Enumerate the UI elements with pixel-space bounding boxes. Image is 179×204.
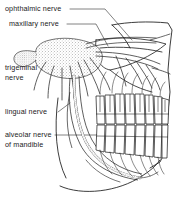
lower-tooth-8 — [162, 125, 168, 158]
label-ophthalmic-nerve-line-0: ophthalmic nerve — [5, 4, 61, 14]
anatomy-figure: ophthalmic nerve maxillary nerve trigemi… — [0, 0, 179, 204]
upper-tooth-1 — [96, 96, 105, 124]
label-lingual-nerve-line-0: lingual nerve — [5, 107, 47, 117]
upper-teeth-row — [96, 94, 169, 124]
mandible-lower-border — [60, 160, 160, 191]
ophthalmic-terminal — [150, 34, 170, 40]
label-alveolar-nerve-line-0: alveolar nerve — [5, 130, 52, 140]
lower-teeth-row — [96, 125, 168, 158]
maxillary-descending-4 — [116, 56, 126, 86]
label-alveolar-nerve-of-mandible: alveolar nerve of mandible — [5, 130, 52, 149]
maxilla-alveolar-ridge — [110, 70, 152, 92]
lower-tooth-5 — [135, 125, 145, 156]
trigeminal-nerve-illustration — [0, 0, 179, 204]
label-lingual-nerve: lingual nerve — [5, 107, 47, 117]
label-maxillary-nerve-line-0: maxillary nerve — [9, 19, 59, 29]
lower-tooth-1 — [96, 125, 105, 152]
lower-tooth-4 — [125, 125, 135, 155]
label-trigeminal-nerve: trigeminal nerve — [5, 63, 37, 82]
lower-tooth-3 — [115, 125, 125, 154]
ophthalmic-nerve-branch — [86, 34, 170, 48]
zygomatic-edge — [112, 25, 130, 48]
label-maxillary-nerve: maxillary nerve — [9, 19, 59, 29]
leader-alveolar — [55, 128, 103, 135]
label-trigeminal-nerve-line-0: trigeminal — [5, 63, 37, 73]
maxilla-inner-line — [100, 47, 162, 52]
maxillary-trunk-b — [96, 56, 158, 69]
leader-ophthalmic — [70, 9, 132, 40]
ganglion-body — [35, 38, 102, 78]
lower-tooth-2 — [105, 125, 115, 153]
maxillary-trunk — [96, 52, 160, 64]
mental-foramen-nerve-exit — [86, 160, 158, 182]
lower-tooth-6 — [145, 125, 154, 157]
label-trigeminal-nerve-line-1: nerve — [5, 73, 37, 83]
upper-tooth-8 — [162, 98, 169, 124]
lower-tooth-7 — [154, 125, 162, 158]
label-ophthalmic-nerve: ophthalmic nerve — [5, 4, 61, 14]
label-alveolar-nerve-line-1: of mandible — [5, 140, 52, 150]
maxillary-posterior-twig — [152, 68, 170, 74]
upper-tooth-6 — [145, 95, 154, 124]
